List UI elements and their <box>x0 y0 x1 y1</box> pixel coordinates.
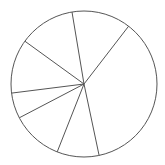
pie-chart <box>0 0 165 165</box>
pie-chart-svg <box>0 0 165 165</box>
